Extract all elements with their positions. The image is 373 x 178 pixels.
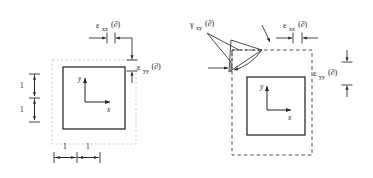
epsilon-xx-symbol: ε [96,20,100,30]
epsilon-yy-subscript: yy [319,74,325,80]
epsilon-xx-symbol: ε [283,20,287,30]
gamma-xy-symbol: γ [189,19,194,29]
epsilon-xx-subscript: xx [102,26,108,32]
strain-diagram-figure: y x ε xx (∂) [0,0,373,178]
epsilon-xx-subscript: xx [289,26,295,32]
horizontal-unit-dimensions: 1 1 [54,142,100,163]
x-axis-label: x [106,105,111,114]
vertical-dim-label-upper: 1 [20,81,24,90]
x-axis-label: x [287,113,292,122]
y-axis-label: y [259,82,264,91]
gamma-xy-argument: (∂) [205,19,215,28]
gamma-xy-label: γ xy (∂) [189,19,215,32]
shear-arrow-top-right-down [262,25,270,42]
shear-leader-lower [207,33,231,62]
axes-group-left: y x [77,74,111,114]
shear-wedge-diagonal [229,50,262,72]
epsilon-xx-dimension-left [89,33,132,49]
epsilon-yy-symbol: ε [313,68,317,78]
shear-strain-panel: y x γ xy (∂) [189,19,353,156]
epsilon-yy-argument: (∂) [152,62,162,71]
shear-leader-upper [207,33,239,50]
y-axis-label: y [77,74,82,83]
epsilon-yy-dimension-right [342,50,353,97]
shear-angle-construction [207,25,270,72]
vertical-unit-dimensions: 1 1 [20,74,40,122]
epsilon-xx-dimension-right [276,33,318,44]
epsilon-xx-label-left: ε xx (∂) [96,20,121,32]
epsilon-yy-symbol: ε [137,62,141,72]
epsilon-xx-argument: (∂) [111,20,121,29]
deformed-square-outline [247,77,305,135]
epsilon-yy-label-right: ε yy (∂) [313,68,338,80]
gamma-xy-subscript: xy [196,25,202,31]
horizontal-dim-label-right: 1 [86,142,90,151]
axes-group-right: y x [259,82,292,122]
deformed-square-outline [63,67,125,129]
diagram-canvas: y x ε xx (∂) [0,0,373,178]
vertical-dim-label-lower: 1 [20,105,24,114]
horizontal-dim-label-left: 1 [63,142,67,151]
epsilon-yy-argument: (∂) [328,68,338,77]
epsilon-xx-argument: (∂) [298,20,308,29]
epsilon-yy-label-left: ε yy (∂) [137,62,161,74]
epsilon-yy-subscript: yy [143,68,149,74]
epsilon-xx-label-right: ε xx (∂) [283,20,308,32]
normal-strain-panel: y x ε xx (∂) [20,20,161,164]
